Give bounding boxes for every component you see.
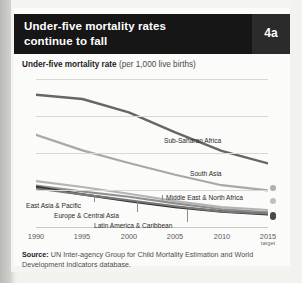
- figure-number-panel: 4a: [252, 14, 290, 54]
- x-tick-2005: 2005: [155, 232, 195, 241]
- x-tick-1990: 1990: [16, 232, 56, 241]
- scanned-page: Under-five mortality rates continue to f…: [0, 0, 302, 283]
- x-tick-2000: 2000: [109, 232, 149, 241]
- series-label-middle-east-north-africa: Middle East & North Africa: [166, 194, 243, 201]
- target-marker-2: [270, 198, 276, 204]
- chart-plot-area: 200 150 100 50 0 Sub-Saharan Africa Sout…: [36, 76, 268, 230]
- leader-europe-central-asia: [137, 202, 138, 212]
- series-label-latin-america-caribbean: Latin America & Caribbean: [94, 222, 172, 229]
- source-note: Source: UN Inter-agency Group for Child …: [22, 250, 272, 270]
- chart-subtitle-measure: Under-five mortality rate: [22, 60, 117, 69]
- x-tick-1995: 1995: [62, 232, 102, 241]
- series-label-sub-saharan-africa: Sub-Saharan Africa: [164, 137, 221, 144]
- figure-title-line1: Under-five mortality rates: [24, 19, 224, 34]
- leader-middle-east-north-africa: [162, 195, 163, 201]
- x-tick-2010: 2010: [202, 232, 242, 241]
- gridline-100: [36, 153, 268, 154]
- gridline-200: [36, 79, 268, 80]
- target-marker-3: [270, 212, 276, 220]
- figure-number-badge: 4a: [252, 26, 290, 40]
- leader-latin-america-caribbean: [187, 209, 188, 222]
- line-south-asia: [36, 135, 268, 191]
- figure-title-line2: continue to fall: [24, 34, 224, 49]
- series-label-east-asia-pacific: East Asia & Pacific: [26, 202, 81, 209]
- figure-title: Under-five mortality rates continue to f…: [24, 19, 224, 49]
- source-label: Source:: [22, 250, 49, 259]
- source-text: UN Inter-agency Group for Child Mortalit…: [22, 250, 253, 269]
- gridline-50: [36, 190, 268, 191]
- series-label-south-asia: South Asia: [190, 170, 222, 177]
- figure-title-bar: Under-five mortality rates continue to f…: [14, 14, 290, 54]
- chart-subtitle: Under-five mortality rate (per 1,000 liv…: [22, 60, 272, 69]
- x-tick-2015-sublabel: target: [248, 240, 288, 246]
- gridline-150: [36, 116, 268, 117]
- chart-subtitle-unit: (per 1,000 live births): [119, 60, 196, 69]
- leader-east-asia-pacific: [94, 195, 95, 202]
- target-marker-1: [270, 185, 276, 191]
- series-label-europe-central-asia: Europe & Central Asia: [54, 212, 119, 219]
